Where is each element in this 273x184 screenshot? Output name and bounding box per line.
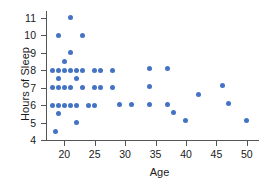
data-point (53, 129, 58, 134)
data-point (56, 76, 61, 81)
data-point (62, 85, 67, 90)
data-point (62, 68, 67, 73)
data-point (68, 85, 73, 90)
x-axis-tick-label: 20 (52, 149, 76, 159)
data-point (50, 85, 55, 90)
data-point (56, 85, 61, 90)
y-axis-tick (41, 105, 46, 106)
x-axis-tick (125, 141, 126, 146)
x-axis-tick-label: 40 (174, 149, 198, 159)
x-axis-tick (216, 141, 217, 146)
data-point (117, 102, 122, 107)
data-point (129, 102, 134, 107)
data-point (171, 110, 176, 115)
data-point (68, 50, 73, 55)
y-axis-tick-label: 9 (14, 48, 36, 58)
data-point (98, 85, 103, 90)
data-point (50, 68, 55, 73)
data-point (110, 68, 115, 73)
x-axis-tick (186, 141, 187, 146)
x-axis-tick-label: 35 (144, 149, 168, 159)
y-axis-tick-label: 4 (14, 135, 36, 145)
data-point (98, 68, 103, 73)
y-axis-tick (41, 123, 46, 124)
data-point (165, 66, 170, 71)
data-point (74, 103, 79, 108)
y-axis-tick (41, 70, 46, 71)
data-point (92, 103, 97, 108)
x-axis-tick (247, 141, 248, 146)
data-point (80, 85, 85, 90)
data-point (56, 103, 61, 108)
data-point (86, 103, 91, 108)
data-point (68, 68, 73, 73)
data-point (244, 118, 249, 123)
y-axis-tick-label: 6 (14, 100, 36, 110)
data-point (183, 118, 188, 123)
data-point (74, 68, 79, 73)
data-point (147, 66, 152, 71)
y-axis-tick-label: 11 (14, 13, 36, 23)
data-point (56, 111, 61, 116)
data-point (74, 76, 79, 81)
data-point (68, 103, 73, 108)
data-point (56, 33, 61, 38)
x-axis-tick (156, 141, 157, 146)
x-axis-tick (64, 141, 65, 146)
data-point (165, 102, 170, 107)
y-axis-tick (41, 35, 46, 36)
y-axis-tick-label: 5 (14, 118, 36, 128)
data-point (62, 103, 67, 108)
x-axis-tick-label: 50 (235, 149, 259, 159)
data-point (220, 83, 225, 88)
data-point (68, 15, 73, 20)
y-axis-tick (41, 18, 46, 19)
x-axis-tick-label: 25 (83, 149, 107, 159)
data-point (147, 102, 152, 107)
y-axis-tick-label: 8 (14, 65, 36, 75)
x-axis-tick (95, 141, 96, 146)
scatter-chart: Hours of Sleep Age 456789101120253035404… (0, 0, 273, 184)
data-point (56, 68, 61, 73)
data-point (226, 101, 231, 106)
data-point (92, 68, 97, 73)
y-axis-tick-label: 10 (14, 30, 36, 40)
y-axis-tick (41, 88, 46, 89)
data-point (62, 59, 67, 64)
x-axis-tick-label: 45 (204, 149, 228, 159)
data-point (50, 103, 55, 108)
data-point (80, 68, 85, 73)
x-axis-tick-label: 30 (113, 149, 137, 159)
data-point (74, 120, 79, 125)
y-axis-tick-label: 7 (14, 83, 36, 93)
data-point (110, 85, 115, 90)
y-axis-tick (41, 140, 46, 141)
y-axis-tick (41, 53, 46, 54)
data-point (196, 92, 201, 97)
data-point (147, 84, 152, 89)
data-point (80, 33, 85, 38)
data-point (92, 85, 97, 90)
